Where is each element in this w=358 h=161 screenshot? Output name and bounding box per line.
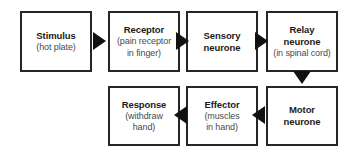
flow-node-response-subtitle: (withdraw hand) [125, 111, 163, 134]
arrow-left-icon-effector-to-response [174, 106, 187, 124]
flow-node-effector-subtitle-line-2: in hand) [204, 122, 239, 134]
flow-node-effector-subtitle-line-1: (muscles [204, 111, 239, 123]
flow-node-stimulus: Stimulus (hot plate) [20, 11, 92, 72]
flow-node-sensory-neurone: Sensory neurone [186, 11, 258, 72]
reflex-arc-diagram: Stimulus (hot plate) Receptor (pain rece… [0, 0, 358, 161]
flow-node-response-subtitle-line-1: (withdraw [125, 111, 163, 123]
arrow-left-icon-motor-neurone-to-effector [252, 106, 265, 124]
flow-node-stimulus-title: Stimulus [36, 30, 75, 42]
flow-node-relay-neurone: Relay neurone (in spinal cord) [266, 11, 338, 72]
flow-node-relay-neurone-title-line-2: neurone [284, 36, 321, 48]
flow-node-receptor: Receptor (pain receptor in finger) [108, 11, 180, 72]
flow-node-response: Response (withdraw hand) [108, 86, 180, 146]
flow-node-receptor-title: Receptor [124, 24, 164, 36]
flow-node-sensory-neurone-title-line-1: Sensory [204, 30, 241, 42]
arrow-down-icon-relay-neurone-to-motor-neurone [293, 71, 311, 84]
flow-node-effector: Effector (muscles in hand) [186, 86, 258, 146]
arrow-right-icon-stimulus-to-receptor [93, 32, 106, 50]
flow-node-sensory-neurone-title-line-2: neurone [204, 42, 241, 54]
flow-node-motor-neurone-title-line-2: neurone [284, 116, 321, 128]
arrow-right-icon-receptor-to-sensory-neurone [176, 32, 189, 50]
arrow-right-icon-sensory-neurone-to-relay-neurone [255, 32, 268, 50]
flow-node-receptor-subtitle: (pain receptor in finger) [117, 36, 171, 59]
flow-node-response-title: Response [122, 99, 167, 111]
flow-node-motor-neurone: Motor neurone [266, 86, 338, 146]
flow-node-relay-neurone-title-line-1: Relay [290, 24, 315, 36]
flow-node-relay-neurone-subtitle: (in spinal cord) [273, 48, 330, 60]
flow-node-receptor-subtitle-line-2: in finger) [117, 48, 171, 60]
flow-node-effector-subtitle: (muscles in hand) [204, 111, 239, 134]
flow-node-stimulus-subtitle: (hot plate) [36, 42, 75, 54]
flow-node-effector-title: Effector [204, 99, 239, 111]
flow-node-response-subtitle-line-2: hand) [125, 122, 163, 134]
flow-node-receptor-subtitle-line-1: (pain receptor [117, 36, 171, 48]
flow-node-motor-neurone-title-line-1: Motor [289, 104, 315, 116]
flow-node-relay-neurone-subtitle-line-1: (in spinal cord) [273, 48, 330, 60]
flow-node-stimulus-subtitle-line-1: (hot plate) [36, 42, 75, 54]
